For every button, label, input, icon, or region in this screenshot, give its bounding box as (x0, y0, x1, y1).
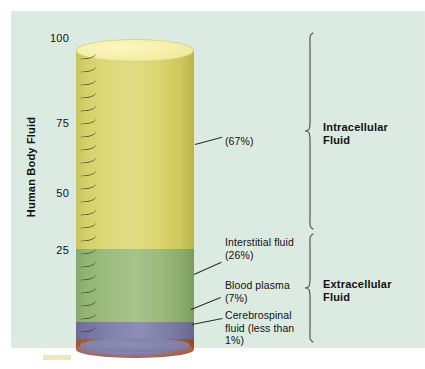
segment-intracellular-fill (76, 50, 194, 249)
y-axis-tick-100: 100 (35, 32, 69, 44)
bracket-intracellular (304, 32, 315, 230)
leader-line-interstitial (194, 262, 222, 275)
callout-blood-plasma-line1: Blood plasma (225, 279, 290, 292)
callout-blood-plasma: Blood plasma (7%) (225, 279, 290, 304)
color-swatch-marker (43, 355, 71, 360)
segment-blood-plasma (76, 322, 194, 339)
cylinder-top-cap (76, 39, 194, 62)
callout-interstitial-line2: (26%) (225, 249, 294, 262)
callout-interstitial: Interstitial fluid (26%) (225, 236, 294, 261)
leader-line-cerebrospinal (192, 318, 223, 325)
group-label-extracellular: Extracellular Fluid (323, 278, 392, 304)
callout-cerebrospinal-line3: 1%) (225, 334, 294, 347)
callout-cerebrospinal-line2: fluid (less than (225, 322, 294, 335)
callout-interstitial-line1: Interstitial fluid (225, 236, 294, 249)
leader-line-intracellular (195, 137, 222, 145)
chart-panel: Human Body Fluid 100 75 50 25 (11, 11, 425, 348)
cylinder-bottom-cap (80, 338, 190, 352)
group-label-extracellular-line1: Extracellular (323, 278, 392, 291)
group-label-extracellular-line2: Fluid (323, 291, 392, 304)
y-axis-tick-75: 75 (35, 117, 69, 129)
segment-interstitial-fluid (76, 249, 194, 322)
callout-intracellular: (67%) (225, 135, 254, 148)
stacked-cylinder (76, 39, 196, 351)
segment-intracellular-fluid (76, 50, 194, 249)
bracket-extracellular (304, 233, 315, 343)
callout-cerebrospinal: Cerebrospinal fluid (less than 1%) (225, 309, 294, 347)
segment-blood-plasma-fill (76, 322, 194, 339)
group-label-intracellular-line2: Fluid (323, 134, 388, 147)
group-label-intracellular: Intracellular Fluid (323, 121, 388, 147)
segment-interstitial-fill (76, 249, 194, 322)
callout-blood-plasma-line2: (7%) (225, 292, 290, 305)
callout-cerebrospinal-line1: Cerebrospinal (225, 309, 294, 322)
figure-root: Human Body Fluid 100 75 50 25 (0, 0, 425, 369)
group-label-intracellular-line1: Intracellular (323, 121, 388, 134)
y-axis-tick-50: 50 (35, 187, 69, 199)
y-axis-tick-25: 25 (35, 244, 69, 256)
